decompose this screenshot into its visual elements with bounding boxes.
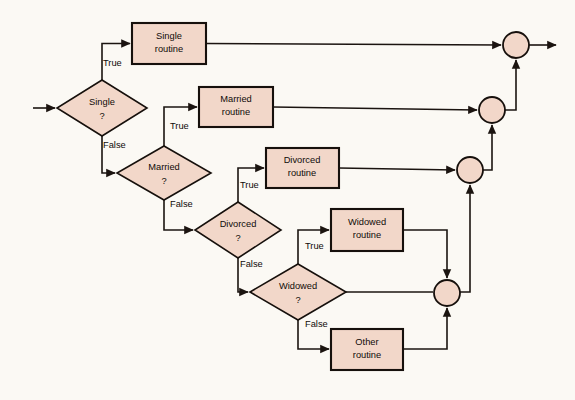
- edge-single-routine-to-junction1: [206, 44, 501, 46]
- decision-label-line1: Married: [148, 162, 180, 172]
- decision-label-line1: Single: [89, 97, 115, 107]
- decision-diamond[interactable]: [195, 202, 281, 258]
- decision-widowed[interactable]: Widowed ?: [250, 264, 346, 320]
- process-label-line1: Single: [156, 31, 182, 41]
- junction-circle-4[interactable]: [434, 280, 460, 306]
- edge-junction2-to-junction1: [505, 60, 516, 110]
- decision-label-line2: ?: [161, 176, 166, 186]
- edge-label-divorced-false: False: [240, 259, 263, 269]
- edge-label-divorced-true: True: [240, 180, 259, 190]
- process-label-line2: routine: [353, 230, 381, 240]
- process-other-routine[interactable]: Other routine: [331, 329, 403, 370]
- process-label-line1: Married: [220, 94, 252, 104]
- process-single-routine[interactable]: Single routine: [132, 23, 206, 64]
- decision-label-line2: ?: [295, 295, 300, 305]
- edge-label-married-false: False: [170, 199, 193, 209]
- decision-single[interactable]: Single ?: [57, 80, 147, 136]
- decision-label-line1: Divorced: [220, 219, 257, 229]
- flowchart-svg: Single routine Married routine Divorced …: [0, 0, 575, 400]
- decision-divorced[interactable]: Divorced ?: [195, 202, 281, 258]
- junction-layer: [434, 32, 529, 306]
- process-label-line2: routine: [288, 168, 316, 178]
- process-label-line1: Divorced: [284, 155, 321, 165]
- edge-label-single-true: True: [103, 58, 122, 68]
- edge-divorced-routine-to-junction3: [339, 168, 455, 170]
- process-widowed-routine[interactable]: Widowed routine: [331, 209, 403, 251]
- decision-diamond[interactable]: [117, 146, 211, 200]
- process-married-routine[interactable]: Married routine: [199, 87, 273, 127]
- edge-label-widowed-false: False: [305, 319, 328, 329]
- edge-junction4-to-junction3: [460, 185, 470, 292]
- process-label-line1: Widowed: [348, 217, 386, 227]
- decision-label-line1: Widowed: [279, 281, 317, 291]
- edge-label-widowed-true: True: [305, 241, 324, 251]
- edge-junction3-to-junction2: [483, 125, 492, 170]
- decision-label-line2: ?: [235, 233, 240, 243]
- decision-label-line2: ?: [99, 111, 104, 121]
- edge-other-routine-to-junction4: [403, 308, 447, 349]
- edge-widowed-routine-to-junction4: [403, 230, 447, 278]
- decision-diamond[interactable]: [250, 264, 346, 320]
- process-label-line2: routine: [353, 350, 381, 360]
- decision-married[interactable]: Married ?: [117, 146, 211, 200]
- process-label-line1: Other: [355, 337, 378, 347]
- edge-married-routine-to-junction2: [273, 107, 477, 110]
- edge-label-married-true: True: [170, 121, 189, 131]
- junction-circle-3[interactable]: [457, 157, 483, 183]
- junction-circle-1[interactable]: [503, 32, 529, 58]
- process-divorced-routine[interactable]: Divorced routine: [266, 148, 339, 188]
- process-label-line2: routine: [222, 107, 250, 117]
- edge-label-single-false: False: [103, 140, 126, 150]
- process-label-line2: routine: [155, 44, 183, 54]
- flowchart-canvas: Single routine Married routine Divorced …: [0, 0, 575, 400]
- decision-diamond[interactable]: [57, 80, 147, 136]
- process-layer: Single routine Married routine Divorced …: [132, 23, 403, 370]
- junction-circle-2[interactable]: [479, 97, 505, 123]
